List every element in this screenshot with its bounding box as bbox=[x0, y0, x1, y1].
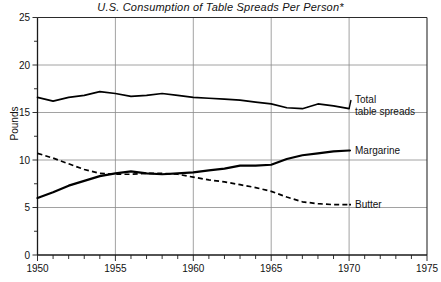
series-labels: Totaltable spreadsMargarineButter bbox=[349, 94, 415, 210]
x-tick-labels: 195019551960196519701975 bbox=[26, 263, 438, 274]
chart-plot: 0510152025 195019551960196519701975 Tota… bbox=[0, 0, 441, 282]
svg-text:1965: 1965 bbox=[260, 263, 283, 274]
svg-text:15: 15 bbox=[19, 107, 31, 118]
svg-text:1950: 1950 bbox=[26, 263, 49, 274]
svg-text:1960: 1960 bbox=[182, 263, 205, 274]
plot-frame bbox=[38, 18, 428, 256]
svg-text:1955: 1955 bbox=[104, 263, 127, 274]
svg-text:Margarine: Margarine bbox=[355, 145, 400, 156]
svg-text:10: 10 bbox=[19, 155, 31, 166]
axis-ticks bbox=[33, 18, 428, 262]
y-tick-labels: 0510152025 bbox=[19, 12, 31, 261]
svg-text:Total: Total bbox=[355, 94, 376, 105]
svg-text:20: 20 bbox=[19, 60, 31, 71]
svg-text:1970: 1970 bbox=[338, 263, 361, 274]
svg-text:table spreads: table spreads bbox=[355, 106, 415, 117]
svg-text:1975: 1975 bbox=[416, 263, 439, 274]
svg-text:25: 25 bbox=[19, 12, 31, 23]
chart-container: U.S. Consumption of Table Spreads Per Pe… bbox=[0, 0, 441, 282]
svg-text:Butter: Butter bbox=[355, 199, 382, 210]
svg-text:0: 0 bbox=[24, 250, 30, 261]
svg-text:5: 5 bbox=[24, 202, 30, 213]
gridlines bbox=[38, 18, 428, 256]
